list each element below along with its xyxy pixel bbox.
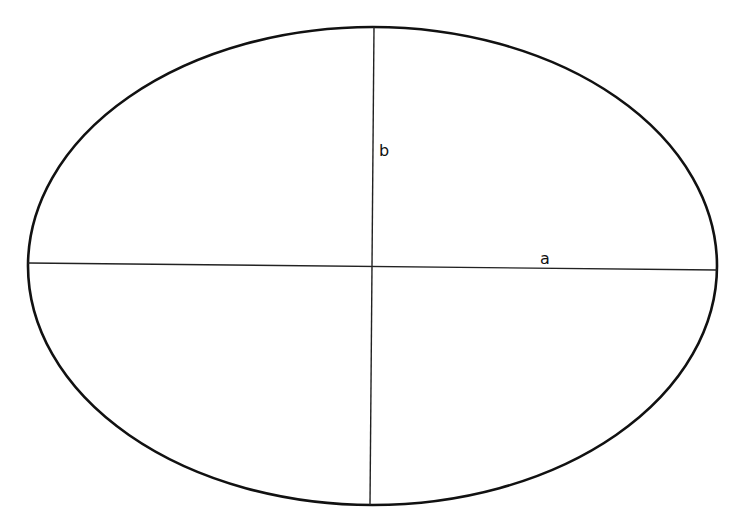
ellipse-diagram: b a	[0, 0, 735, 527]
label-a: a	[540, 249, 550, 268]
label-b: b	[379, 141, 389, 160]
